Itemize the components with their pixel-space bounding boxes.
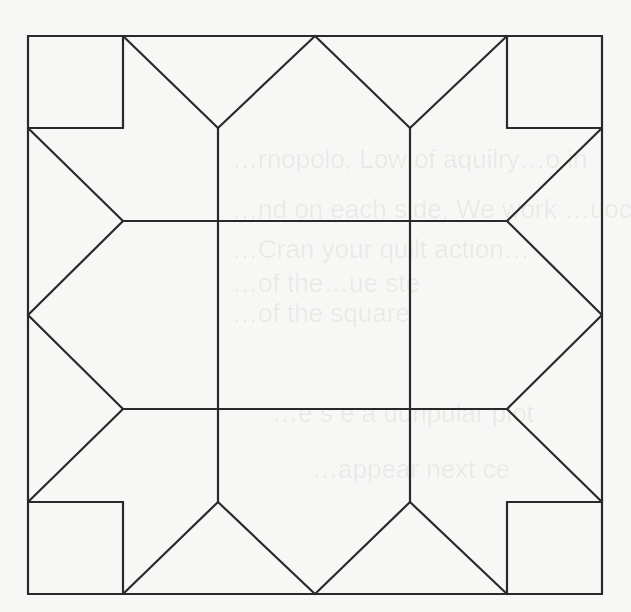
diagram-line xyxy=(218,36,315,128)
diagram-line xyxy=(315,36,410,128)
diagram-line xyxy=(507,128,602,221)
diagram-line xyxy=(28,315,123,409)
diagram-line xyxy=(410,502,507,594)
diagram-line xyxy=(218,502,315,594)
diagram-line xyxy=(123,502,218,594)
diagram-line xyxy=(28,221,123,315)
diagram-line xyxy=(315,502,410,594)
diagram-line xyxy=(28,128,123,221)
diagram-line xyxy=(123,36,218,128)
diagram-line xyxy=(28,409,123,502)
diagram-line xyxy=(507,221,602,315)
quilt-block-diagram xyxy=(0,0,631,612)
diagram-line xyxy=(507,409,602,502)
diagram-line xyxy=(507,315,602,409)
diagram-line xyxy=(410,36,507,128)
